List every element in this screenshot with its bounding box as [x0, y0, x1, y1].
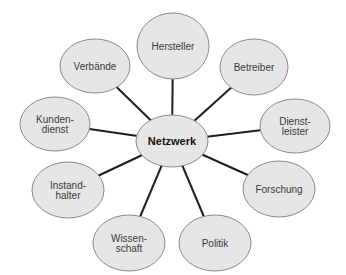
node-wissenschaft: Wissen-schaft [93, 215, 165, 271]
node-betreiber: Betreiber [220, 39, 288, 95]
node-label: Wissen-schaft [111, 233, 147, 254]
node-instandhalter: Instand-halter [32, 162, 104, 218]
node-label: Betreiber [234, 62, 275, 73]
node-label: Hersteller [152, 41, 195, 52]
center-node: Netzwerk [136, 115, 208, 167]
node-label: Verbände [74, 61, 117, 72]
node-label: Politik [202, 238, 230, 249]
node-politik: Politik [179, 215, 251, 271]
node-label-line: Hersteller [152, 41, 195, 52]
node-label-line: leister [282, 126, 309, 137]
node-forschung: Forschung [243, 161, 315, 217]
node-label-line: dienst [42, 124, 69, 135]
node-kundendienst: Kunden-dienst [20, 97, 90, 151]
node-label-line: Verbände [74, 61, 117, 72]
node-label-line: Forschung [255, 184, 302, 195]
node-label-line: halter [55, 190, 81, 201]
network-diagram: HerstellerBetreiberDienst-leisterForschu… [0, 0, 346, 275]
center-node-label: Netzwerk [148, 135, 197, 147]
node-label-line: schaft [116, 243, 143, 254]
node-hersteller: Hersteller [137, 13, 209, 79]
node-label-line: Betreiber [234, 62, 275, 73]
node-label-line: Politik [202, 238, 230, 249]
node-label: Dienst-leister [279, 116, 311, 137]
node-label: Forschung [255, 184, 302, 195]
node-dienstleister: Dienst-leister [260, 99, 330, 153]
node-label: Kunden-dienst [36, 114, 74, 135]
node-verbaende: Verbände [60, 39, 130, 93]
